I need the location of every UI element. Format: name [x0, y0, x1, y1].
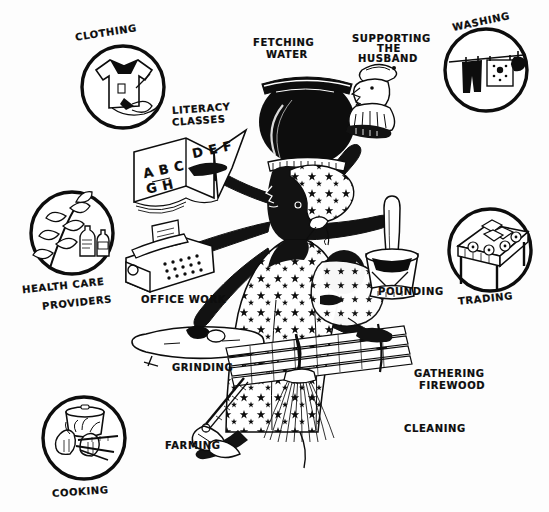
label-cleaning: CLEANING	[404, 424, 466, 434]
label-pounding: POUNDING	[378, 287, 444, 297]
label-fetching-water-line2: WATER	[266, 50, 308, 60]
circle-cooking[interactable]	[43, 397, 125, 479]
circle-health-care[interactable]	[31, 192, 113, 274]
husband-figure-icon	[346, 64, 397, 138]
mortar-pestle-icon	[366, 196, 418, 299]
circle-washing[interactable]	[445, 29, 527, 111]
circle-clothing[interactable]	[82, 46, 164, 128]
label-farming: FARMING	[165, 441, 221, 451]
label-supporting-husband-line3: HUSBAND	[358, 54, 418, 64]
label-fetching-water-line1: FETCHING	[253, 38, 314, 48]
water-pot-icon	[259, 77, 355, 166]
circle-trading[interactable]	[449, 209, 531, 291]
label-gathering-firewood-line1: GATHERING	[414, 369, 485, 379]
label-office-work: OFFICE WORK	[141, 295, 226, 305]
label-grinding: GRINDING	[172, 363, 233, 373]
label-gathering-firewood-line2: FIREWOOD	[419, 381, 485, 391]
typewriter-icon	[126, 220, 214, 292]
illustration-svg	[0, 0, 549, 512]
illustration-canvas: CLOTHING WASHING HEALTH CARE PROVIDERS T…	[0, 0, 549, 512]
